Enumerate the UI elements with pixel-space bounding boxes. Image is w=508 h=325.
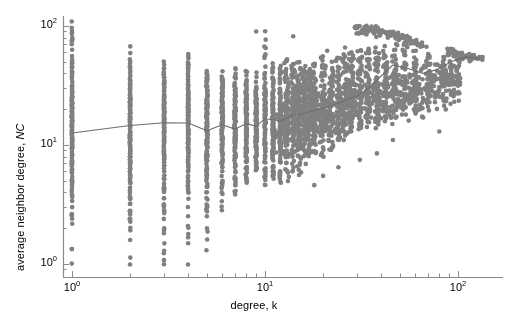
x-axis-title: degree, k bbox=[0, 299, 508, 311]
figure-container: 100 101 102 100 101 102 degree, k averag… bbox=[0, 0, 508, 325]
y-tick-label-100: 102 bbox=[41, 18, 57, 30]
y-axis-title: average neighbor degree, NC bbox=[14, 123, 26, 271]
scatter-plot-canvas bbox=[0, 0, 508, 325]
y-tick-label-10: 101 bbox=[41, 137, 57, 149]
y-tick-label-1: 100 bbox=[41, 256, 57, 268]
x-tick-label-1: 100 bbox=[64, 281, 80, 293]
x-tick-label-10: 101 bbox=[257, 281, 273, 293]
y-axis-title-symbol: NC bbox=[14, 123, 26, 139]
x-tick-label-100: 102 bbox=[450, 281, 466, 293]
y-axis-title-text: average neighbor degree, bbox=[14, 139, 26, 271]
